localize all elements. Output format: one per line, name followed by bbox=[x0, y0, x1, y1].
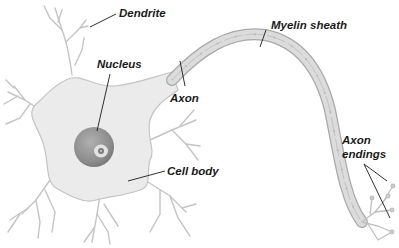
label-axon-endings-line1: Axon bbox=[342, 134, 371, 147]
nucleus bbox=[74, 127, 114, 167]
axon-endings bbox=[362, 184, 395, 240]
axon-myelin-sheath bbox=[172, 34, 362, 222]
label-myelin-sheath: Myelin sheath bbox=[271, 19, 347, 32]
label-axon-endings-line2: endings bbox=[342, 148, 386, 161]
label-dendrite: Dendrite bbox=[119, 7, 166, 20]
label-nucleus: Nucleus bbox=[97, 58, 142, 71]
neuron-illustration bbox=[0, 0, 399, 248]
neuron-diagram: Dendrite Nucleus Myelin sheath Axon Cell… bbox=[0, 0, 399, 248]
label-axon: Axon bbox=[170, 92, 199, 105]
label-cell-body: Cell body bbox=[167, 165, 219, 178]
